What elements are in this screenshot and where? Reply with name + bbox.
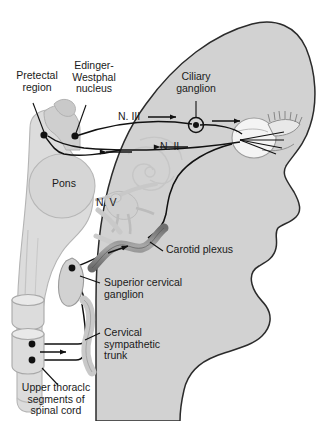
label-pons: Pons <box>40 178 88 190</box>
label-ciliary-ganglion: Ciliary ganglion <box>160 71 232 94</box>
label-carotid-plexus: Carotid plexus <box>166 244 270 256</box>
label-edinger-westphal: Edinger- Westphal nucleus <box>58 60 130 95</box>
thoracic-lower-node <box>29 357 36 364</box>
label-superior-cervical-ganglion: Superior cervical ganglion <box>104 277 208 300</box>
label-cervical-sympathetic-trunk: Cervical sympathetic trunk <box>104 327 184 362</box>
edinger-westphal-node <box>71 132 78 139</box>
label-nerve-five: N. V <box>96 197 128 209</box>
label-nerve-two: N. II <box>160 141 190 153</box>
label-nerve-three: N. III <box>118 111 152 123</box>
pretectal-region-node <box>40 131 47 138</box>
figure-canvas: Pretectal region Edinger- Westphal nucle… <box>0 0 325 421</box>
label-upper-thoracic-segments: Upper thoraclc segments of spinal cord <box>2 382 110 417</box>
superior-cervical-ganglion-node <box>69 265 76 272</box>
ciliary-ganglion-node <box>193 122 199 128</box>
thoracic-upper-node <box>29 341 36 348</box>
sympathetic-trunk-column <box>84 300 92 372</box>
spinal-segment-cylinders <box>12 295 44 375</box>
